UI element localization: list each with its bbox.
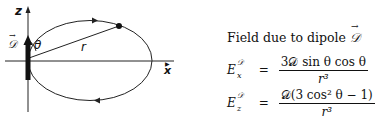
field-arrow-top-icon [92,18,98,24]
theta-label: θ [34,38,41,52]
denominator: r³ [318,71,329,86]
dipole-field-diagram [0,0,200,122]
denominator: r³ [321,104,332,119]
equation-ez: E 𝒟 z = 𝒟(3 cos² θ − 1) r³ [227,88,375,119]
z-axis-label: z [15,4,22,18]
radius-label: r [81,40,86,54]
numerator: 𝒟(3 cos² θ − 1) [279,88,375,104]
equation-ex-lhs: E 𝒟 x [227,63,249,77]
equals-sign: = [259,96,269,110]
equation-ez-fraction: 𝒟(3 cos² θ − 1) r³ [279,88,375,119]
caption: Field due to dipole → 𝒟 [227,30,360,46]
equation-ex-fraction: 3𝒟 sin θ cos θ r³ [279,55,368,86]
field-point [116,23,122,29]
caption-dipole-symbol: 𝒟 [350,30,360,45]
dipole-arrowhead-icon [24,35,33,45]
dipole-bar [26,42,31,80]
z-axis-arrowhead-icon [26,6,31,13]
equation-ex: E 𝒟 x = 3𝒟 sin θ cos θ r³ [227,55,368,86]
numerator: 3𝒟 sin θ cos θ [279,55,368,71]
equals-sign: = [259,63,269,77]
radius-line [29,26,119,58]
caption-title: Field due to dipole [227,30,346,45]
x-vector-mark-icon: ▶ [165,60,170,67]
field-arrow-bottom-icon [94,98,100,104]
dipole-vector-arrow-icon: → [9,31,16,40]
equation-ez-lhs: E 𝒟 z [227,96,249,110]
dipole-vector-arrow-icon: → [351,21,359,31]
